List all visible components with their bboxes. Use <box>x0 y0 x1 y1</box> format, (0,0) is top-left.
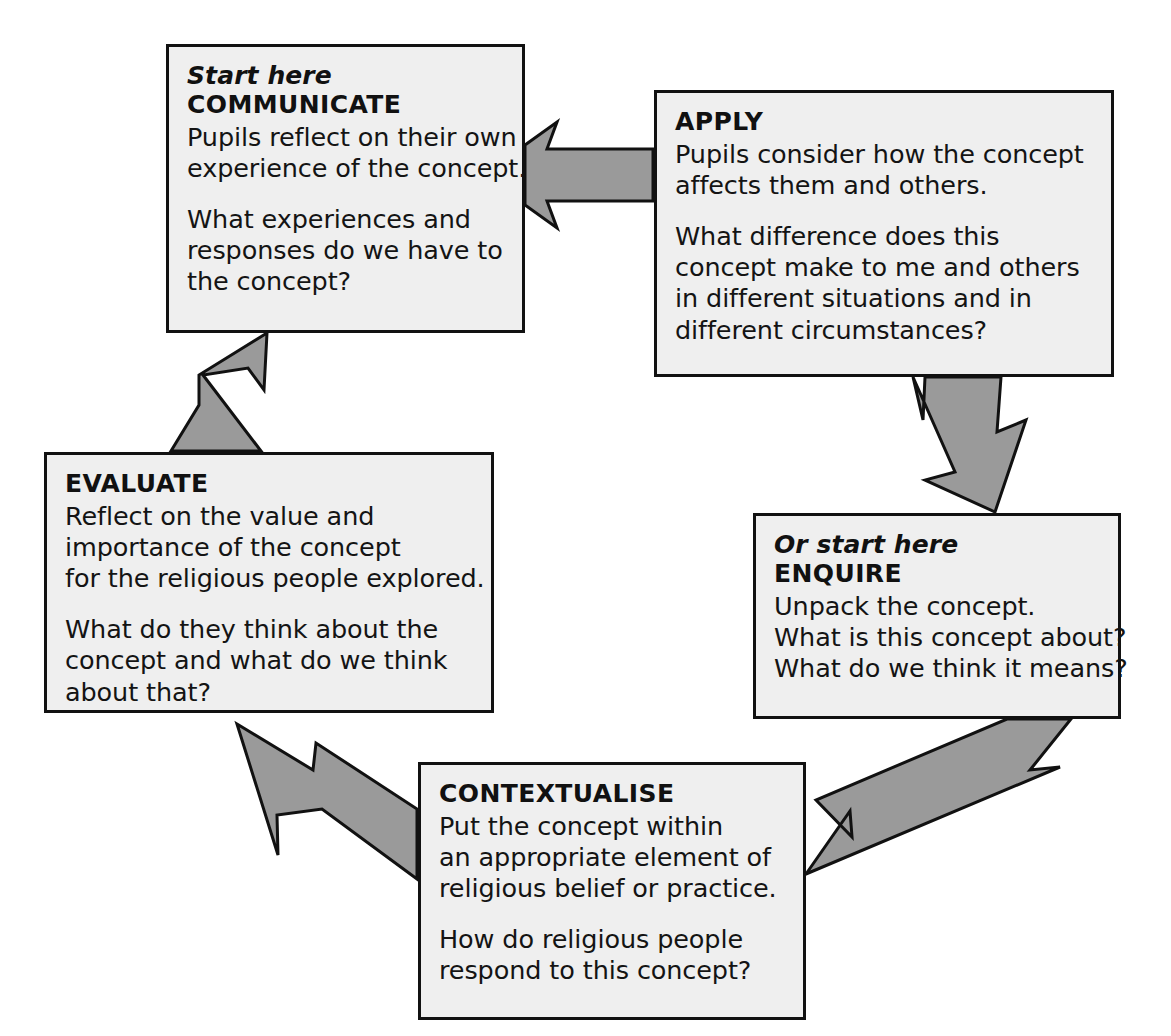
node-apply-paragraph-2: What difference does this concept make t… <box>675 221 1095 345</box>
text-line: about that? <box>65 677 475 708</box>
text-line: What do we think it means? <box>774 653 1102 684</box>
text-line: Unpack the concept. <box>774 591 1102 622</box>
text-line: concept and what do we think <box>65 645 475 676</box>
diagram-canvas: Start here COMMUNICATE Pupils reflect on… <box>0 0 1171 1036</box>
text-line: Put the concept within <box>439 811 787 842</box>
text-line: Pupils reflect on their own <box>187 122 506 153</box>
arrow-enquire-to-contextualise <box>806 719 1071 874</box>
text-line: Reflect on the value and <box>65 501 475 532</box>
text-line: responses do we have to <box>187 235 506 266</box>
node-apply-paragraph-1: Pupils consider how the concept affects … <box>675 139 1095 201</box>
node-contextualise-paragraph-1: Put the concept within an appropriate el… <box>439 811 787 904</box>
text-line: the concept? <box>187 266 506 297</box>
node-evaluate-title: EVALUATE <box>65 469 475 499</box>
text-line: How do religious people <box>439 924 787 955</box>
node-communicate-paragraph-1: Pupils reflect on their own experience o… <box>187 122 506 184</box>
node-enquire-paragraph-1: Unpack the concept. What is this concept… <box>774 591 1102 684</box>
text-line: affects them and others. <box>675 170 1095 201</box>
node-evaluate[interactable]: EVALUATE Reflect on the value and import… <box>44 452 494 713</box>
arrow-evaluate-to-communicate <box>171 333 267 451</box>
node-communicate[interactable]: Start here COMMUNICATE Pupils reflect on… <box>166 44 525 333</box>
node-communicate-title: COMMUNICATE <box>187 90 506 120</box>
text-line: for the religious people explored. <box>65 563 475 594</box>
text-line: What is this concept about? <box>774 622 1102 653</box>
text-line: different circumstances? <box>675 315 1095 346</box>
node-evaluate-paragraph-1: Reflect on the value and importance of t… <box>65 501 475 594</box>
node-apply[interactable]: APPLY Pupils consider how the concept af… <box>654 90 1114 377</box>
arrow-contextualise-to-evaluate <box>237 724 417 879</box>
node-apply-title: APPLY <box>675 107 1095 137</box>
text-line: an appropriate element of <box>439 842 787 873</box>
node-communicate-paragraph-2: What experiences and responses do we hav… <box>187 204 506 297</box>
node-enquire-title: ENQUIRE <box>774 559 1102 589</box>
text-line: What do they think about the <box>65 614 475 645</box>
node-enquire[interactable]: Or start here ENQUIRE Unpack the concept… <box>753 513 1121 719</box>
node-communicate-eyebrow: Start here <box>187 61 506 90</box>
text-line: importance of the concept <box>65 532 475 563</box>
node-enquire-eyebrow: Or start here <box>774 530 1102 559</box>
text-line: in different situations and in <box>675 283 1095 314</box>
node-contextualise-paragraph-2: How do religious people respond to this … <box>439 924 787 986</box>
text-line: religious belief or practice. <box>439 873 787 904</box>
text-line: concept make to me and others <box>675 252 1095 283</box>
text-line: respond to this concept? <box>439 955 787 986</box>
text-line: experience of the concept. <box>187 153 506 184</box>
arrow-communicate-to-apply <box>525 122 653 228</box>
text-line: What difference does this <box>675 221 1095 252</box>
arrow-apply-to-enquire <box>913 377 1026 512</box>
text-line: What experiences and <box>187 204 506 235</box>
node-evaluate-paragraph-2: What do they think about the concept and… <box>65 614 475 707</box>
text-line: Pupils consider how the concept <box>675 139 1095 170</box>
node-contextualise-title: CONTEXTUALISE <box>439 779 787 809</box>
node-contextualise[interactable]: CONTEXTUALISE Put the concept within an … <box>418 762 806 1020</box>
